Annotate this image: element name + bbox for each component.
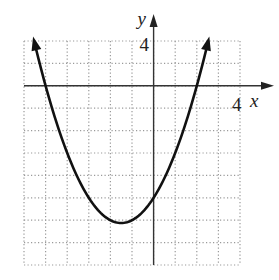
x-axis-arrow-icon <box>261 82 274 90</box>
y-axis-label: y <box>136 8 147 29</box>
parabola-graph: x y 4 4 <box>0 0 279 280</box>
y-axis-arrow-icon <box>150 14 158 27</box>
x-axis-label: x <box>249 90 259 111</box>
x-tick-label: 4 <box>232 94 242 115</box>
curve-left-arrow-icon <box>32 37 42 52</box>
y-tick-label: 4 <box>140 34 150 55</box>
grid <box>24 41 240 265</box>
curve-right-arrow-icon <box>201 37 211 52</box>
parabola-curve <box>34 41 208 223</box>
